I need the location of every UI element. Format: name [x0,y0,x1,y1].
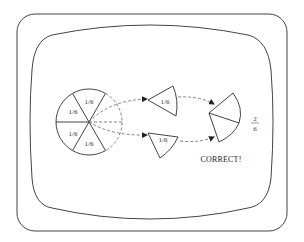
combined-pieces [209,93,241,142]
moved-piece-upper: 1/6 [148,86,177,116]
monitor-illustration: 1/6 1/6 1/6 1/6 1/6 1/6 2 6 CORRECT! [0,0,304,242]
move-arrow-upper [89,99,147,122]
piece-label: 1/6 [159,136,168,144]
piece-label: 1/6 [161,98,170,106]
pie-slice-label: 1/6 [69,108,78,116]
move-arrow-lower [89,122,147,135]
fraction-denominator: 6 [253,125,257,133]
moved-piece-lower: 1/6 [148,133,178,158]
pie-slice-label: 1/6 [85,140,94,148]
pie-slice-label: 1/6 [85,98,94,106]
fraction-numerator: 2 [253,115,257,123]
combine-arrow-upper [178,97,214,104]
result-fraction: 2 6 [251,115,259,133]
feedback-message: CORRECT! [200,155,241,164]
combine-arrow-lower [180,137,214,142]
pie-slice-label: 1/6 [69,130,78,138]
